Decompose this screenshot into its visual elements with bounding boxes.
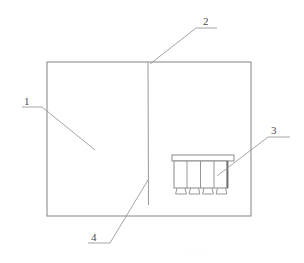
vertical-divider-line: [148, 62, 149, 205]
leader-4-diagonal: [110, 180, 148, 243]
rack-foot-4: [216, 188, 227, 194]
leader-line-2: [150, 28, 217, 64]
rack-foot-1: [176, 188, 187, 194]
outer-rectangle: [47, 62, 251, 216]
leader-line-1: [22, 107, 95, 150]
main-body-outline: [47, 62, 251, 216]
leader-1-diagonal: [42, 107, 95, 150]
technical-figure: 1 2 3 4 · · · ·: [0, 0, 304, 263]
rack-body: [174, 161, 228, 188]
leader-line-4: [88, 180, 148, 243]
rack-top-cap: [172, 155, 234, 161]
figure-linework: [0, 0, 304, 263]
rack-feet: [176, 188, 227, 194]
caption-artifact: · · · ·: [182, 246, 244, 253]
leader-2-diagonal: [150, 28, 196, 64]
reference-numeral-3: 3: [271, 125, 277, 136]
reference-numeral-2: 2: [203, 16, 209, 27]
rack-assembly: [172, 155, 234, 194]
rack-foot-2: [189, 188, 200, 194]
rack-foot-3: [203, 188, 214, 194]
reference-numeral-4: 4: [91, 232, 97, 243]
reference-numeral-1: 1: [24, 96, 30, 107]
vertical-divider-group: [148, 62, 149, 205]
